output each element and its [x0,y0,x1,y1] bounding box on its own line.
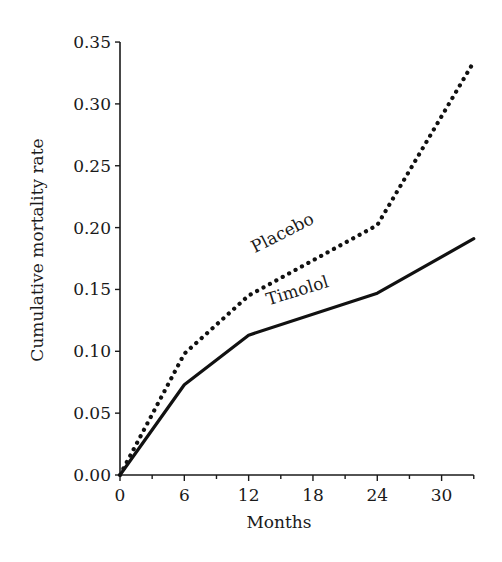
y-tick-label: 0.30 [73,94,111,114]
y-tick-label: 0.35 [73,32,111,52]
x-tick-label: 30 [431,485,453,505]
y-axis: 0.000.050.100.150.200.250.300.35 [73,32,120,485]
y-tick-label: 0.20 [73,218,111,238]
timolol-series-label: Timolol [264,271,331,309]
placebo-series-label: Placebo [248,208,317,257]
y-tick-label: 0.00 [73,465,111,485]
x-axis-title: Months [246,512,311,532]
x-tick-label: 18 [302,485,324,505]
timolol-series-line [120,239,474,475]
y-tick-label: 0.05 [73,403,111,423]
y-axis-title: Cumulative mortality rate [27,138,47,361]
mortality-line-chart: 0.000.050.100.150.200.250.300.35 0612182… [0,0,502,562]
y-tick-label: 0.25 [73,156,111,176]
x-tick-label: 0 [115,485,126,505]
x-axis: 0612182430 [115,475,474,505]
x-tick-label: 24 [366,485,388,505]
x-tick-label: 12 [238,485,260,505]
y-tick-label: 0.15 [73,279,111,299]
x-tick-label: 6 [179,485,190,505]
y-tick-label: 0.10 [73,341,111,361]
